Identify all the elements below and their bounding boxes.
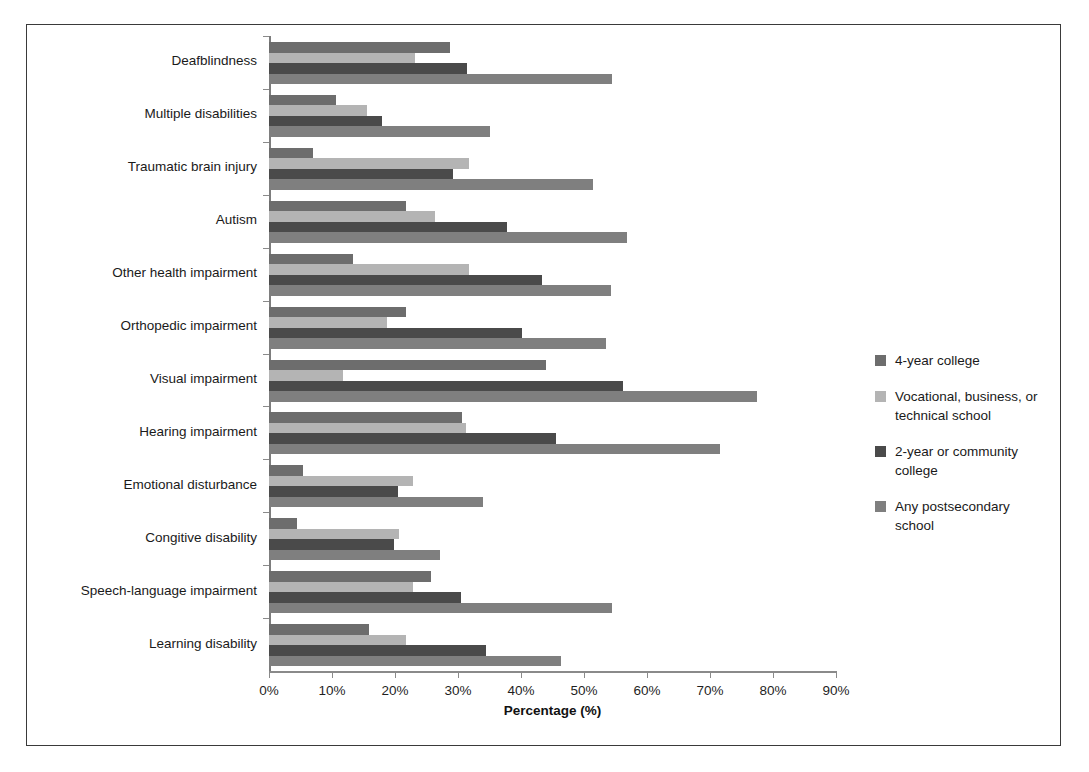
x-tick	[395, 671, 396, 678]
bar	[269, 53, 415, 64]
bar	[269, 338, 606, 349]
bar	[269, 211, 435, 222]
bar	[269, 201, 406, 212]
bar	[269, 476, 413, 487]
bar	[269, 126, 490, 137]
x-tick-label: 0%	[239, 683, 299, 698]
x-tick	[521, 671, 522, 678]
plot-area: 0%10%20%30%40%50%60%70%80%90% Deafblindn…	[269, 36, 836, 671]
bar	[269, 95, 336, 106]
x-tick-label: 20%	[365, 683, 425, 698]
x-tick	[773, 671, 774, 678]
legend-label: 4-year college	[895, 353, 980, 368]
bar	[269, 370, 343, 381]
bar-group: Multiple disabilities	[269, 89, 836, 142]
x-tick-label: 80%	[743, 683, 803, 698]
x-axis-line	[269, 671, 837, 673]
bar	[269, 307, 406, 318]
bar	[269, 275, 542, 286]
x-tick-label: 60%	[617, 683, 677, 698]
x-tick	[647, 671, 648, 678]
bar-group: Speech-language impairment	[269, 565, 836, 618]
bar-group: Traumatic brain injury	[269, 142, 836, 195]
bar	[269, 582, 413, 593]
category-label: Traumatic brain injury	[27, 159, 257, 174]
x-axis-title: Percentage (%)	[269, 703, 836, 718]
bar-group: Learning disability	[269, 618, 836, 671]
bar	[269, 550, 440, 561]
bar	[269, 74, 612, 85]
bar-group: Deafblindness	[269, 36, 836, 89]
legend-swatch-icon	[875, 446, 886, 457]
legend-swatch-icon	[875, 391, 886, 402]
x-tick-label: 40%	[491, 683, 551, 698]
bar	[269, 518, 297, 529]
category-label: Orthopedic impairment	[27, 318, 257, 333]
legend-item[interactable]: Any postsecondary school	[875, 497, 1050, 535]
bar-group: Hearing impairment	[269, 406, 836, 459]
bar	[269, 656, 561, 667]
legend-item[interactable]: 2-year or community college	[875, 442, 1050, 480]
bar	[269, 285, 611, 296]
bar	[269, 42, 450, 53]
bar	[269, 412, 462, 423]
x-tick	[458, 671, 459, 678]
x-tick	[710, 671, 711, 678]
bar	[269, 497, 483, 508]
category-label: Autism	[27, 212, 257, 227]
legend-label: 2-year or community college	[895, 444, 1018, 478]
category-label: Hearing impairment	[27, 424, 257, 439]
bar	[269, 592, 461, 603]
legend-swatch-icon	[875, 501, 886, 512]
legend-item[interactable]: 4-year college	[875, 351, 1050, 370]
bar	[269, 328, 522, 339]
legend-item[interactable]: Vocational, business, or technical schoo…	[875, 387, 1050, 425]
bar	[269, 179, 593, 190]
x-tick	[332, 671, 333, 678]
chart-legend: 4-year collegeVocational, business, or t…	[875, 351, 1050, 552]
bar	[269, 391, 757, 402]
category-label: Visual impairment	[27, 371, 257, 386]
x-tick-label: 30%	[428, 683, 488, 698]
bar	[269, 635, 406, 646]
bar	[269, 169, 453, 180]
bar	[269, 317, 387, 328]
bar	[269, 433, 556, 444]
legend-label: Any postsecondary school	[895, 499, 1010, 533]
bar-group: Autism	[269, 195, 836, 248]
bar-group: Congitive disability	[269, 512, 836, 565]
bar	[269, 116, 382, 127]
bar	[269, 444, 720, 455]
bar	[269, 360, 546, 371]
bar	[269, 105, 367, 116]
x-tick-label: 10%	[302, 683, 362, 698]
bar	[269, 645, 486, 656]
category-label: Congitive disability	[27, 530, 257, 545]
bar-group: Other health impairment	[269, 248, 836, 301]
x-tick-label: 90%	[806, 683, 866, 698]
bar-group: Orthopedic impairment	[269, 301, 836, 354]
x-tick	[269, 671, 270, 678]
bar	[269, 539, 394, 550]
category-label: Other health impairment	[27, 265, 257, 280]
x-tick-label: 50%	[554, 683, 614, 698]
bar	[269, 603, 612, 614]
bar-group: Visual impairment	[269, 354, 836, 407]
bar	[269, 63, 467, 74]
category-label: Speech-language impairment	[27, 583, 257, 598]
bar	[269, 529, 399, 540]
bar	[269, 254, 353, 265]
bar	[269, 486, 398, 497]
bar	[269, 148, 313, 159]
bar-group: Emotional disturbance	[269, 459, 836, 512]
legend-label: Vocational, business, or technical schoo…	[895, 389, 1038, 423]
bar	[269, 465, 303, 476]
bar	[269, 222, 507, 233]
bar	[269, 423, 466, 434]
bar	[269, 624, 369, 635]
x-tick	[836, 671, 837, 678]
bar	[269, 232, 627, 243]
bar	[269, 264, 469, 275]
chart-frame: 0%10%20%30%40%50%60%70%80%90% Deafblindn…	[26, 24, 1061, 746]
category-label: Emotional disturbance	[27, 477, 257, 492]
